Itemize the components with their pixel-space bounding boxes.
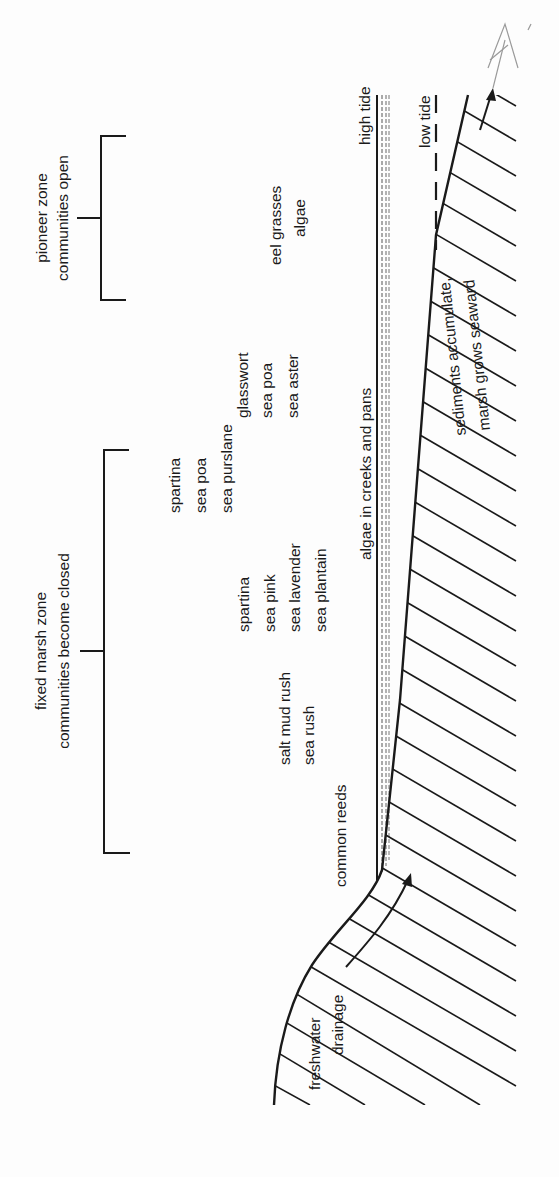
plant-label: algae (291, 199, 308, 237)
fixed-zone-label: fixed marsh zone communities become clos… (32, 553, 72, 749)
plant-label: sea pink (261, 574, 278, 632)
plant-group-eel-grasses: eel grasses algae (267, 185, 308, 265)
high-tide-line (377, 95, 389, 880)
plant-group-rushes: salt mud rush sea rush (276, 672, 317, 765)
seaward-arrow-icon (480, 88, 496, 130)
plant-label: sea poa (258, 362, 275, 418)
plant-group-common-reeds: common reeds (332, 784, 349, 887)
salt-marsh-diagram: pioneer zone communities open fixed mars… (0, 0, 559, 1177)
sediment-hatching (270, 0, 516, 1105)
pioneer-zone-title: pioneer zone (33, 173, 50, 263)
plant-label: sea lavender (286, 543, 303, 632)
drainage-label: drainage (329, 995, 346, 1055)
drainage-arrow-icon (346, 873, 412, 967)
low-tide-label: low tide (416, 95, 433, 148)
freshwater-label: freshwater (306, 1018, 323, 1090)
plant-label: sea aster (284, 354, 301, 418)
pioneer-zone-label: pioneer zone communities open (33, 155, 71, 281)
high-tide-label: high tide (356, 86, 373, 145)
fixed-zone-title: fixed marsh zone (32, 592, 49, 710)
fixed-zone-subtitle: communities become closed (55, 553, 72, 749)
plant-label: spartina (235, 576, 252, 632)
pioneer-zone-subtitle: communities open (54, 155, 71, 281)
plant-label: salt mud rush (276, 672, 293, 765)
plant-label: sea poa (192, 457, 209, 513)
pencil-arrow-mark-icon (488, 24, 531, 88)
fixed-zone-bracket (80, 450, 130, 853)
plant-label: eel grasses (267, 185, 284, 265)
pioneer-zone-bracket (77, 136, 126, 300)
plant-label: sea plantain (312, 548, 329, 632)
plant-label: spartina (166, 457, 183, 513)
plant-group-spartina-sea-pink: spartina sea pink sea lavender sea plant… (235, 543, 329, 632)
plant-label: glasswort (234, 352, 251, 418)
plant-label: sea purslane (218, 424, 235, 513)
plant-label: common reeds (332, 784, 349, 887)
plant-group-spartina-purslane: spartina sea poa sea purslane (166, 424, 235, 513)
algae-creeks-label: algae in creeks and pans (357, 387, 374, 560)
plant-group-glasswort: glasswort sea poa sea aster (234, 352, 301, 418)
plant-label: sea rush (300, 706, 317, 765)
shore-profile-line (274, 95, 468, 1105)
